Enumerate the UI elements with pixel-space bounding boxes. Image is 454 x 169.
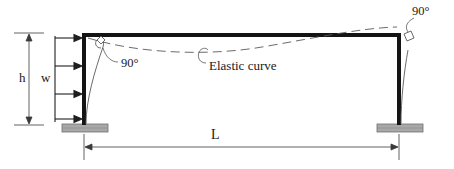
- right-angle-marker-right: [404, 31, 414, 41]
- support-right: [377, 124, 423, 132]
- elastic-curve: [86, 27, 408, 124]
- distributed-load-w: [55, 35, 82, 123]
- elastic-curve-label: Elastic curve: [209, 59, 277, 72]
- height-dimension-label: h: [19, 71, 26, 84]
- angle-label-right: 90°: [412, 5, 430, 18]
- frame-diagram-svg: [0, 0, 454, 169]
- load-label: w: [41, 71, 50, 84]
- angle-label-left: 90°: [121, 57, 139, 70]
- frame-structure: [82, 33, 401, 125]
- span-dimension: [84, 134, 399, 160]
- span-dimension-label: L: [211, 128, 220, 142]
- support-left: [62, 124, 108, 132]
- leader-lines: [103, 18, 414, 63]
- structural-frame-figure: h w 90° 90° Elastic curve L: [0, 0, 454, 169]
